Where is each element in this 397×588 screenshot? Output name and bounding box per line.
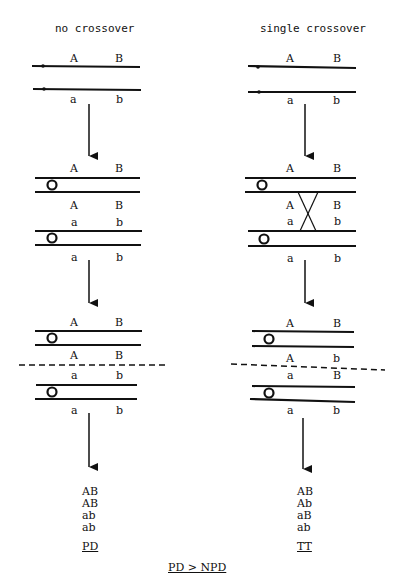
chromosome-line [32,66,140,67]
allele-label: a [71,217,78,228]
allele-label: a [287,216,294,227]
allele-label: b [116,405,123,416]
centromere-icon [260,235,269,244]
allele-label: A [286,53,294,64]
allele-label: b [116,94,123,105]
centromere-icon [48,234,57,243]
no-crossover-column [19,64,165,467]
allele-label: b [334,216,341,227]
allele-label: a [70,94,77,105]
allele-label: a [71,405,78,416]
no-crossover-title: no crossover [55,22,134,35]
allele-label: A [286,318,294,329]
result-label-tt: TT [297,541,313,553]
allele-label: A [70,53,78,64]
genotype: ab [82,522,98,534]
allele-label: a [287,95,294,106]
crossover-chiasma [300,192,318,231]
result-label-pd: PD [82,541,98,553]
allele-label: b [116,217,123,228]
centromere-dot [42,87,46,91]
allele-label: a [287,253,294,264]
allele-label: B [333,200,341,211]
chromosome-line [33,89,141,90]
centromere-icon [48,181,57,190]
genotype-list-no-crossover: AB AB ab ab PD [82,486,98,553]
allele-label: b [333,95,340,106]
allele-label: A [286,353,294,364]
allele-label: A [70,317,78,328]
meiosis-diagram [0,0,397,588]
crossover-chiasma [298,192,316,231]
allele-label: a [287,405,294,416]
allele-label: b [334,253,341,264]
allele-label: B [333,318,341,329]
allele-label: B [115,350,123,361]
allele-label: b [333,353,340,364]
allele-label: A [286,200,294,211]
allele-label: b [116,252,123,263]
centromere-icon [265,389,274,398]
allele-label: A [286,163,294,174]
centromere-icon [48,388,57,397]
allele-label: B [333,370,341,381]
allele-label: a [287,370,294,381]
centromere-dot [41,64,45,68]
allele-label: a [71,252,78,263]
allele-label: A [70,163,78,174]
allele-label: b [116,370,123,381]
allele-label: a [71,370,78,381]
single-crossover-title: single crossover [260,22,366,35]
division-line [231,364,385,370]
centromere-icon [48,334,57,343]
allele-label: B [333,53,341,64]
allele-label: b [333,405,340,416]
allele-label: B [115,163,123,174]
allele-label: A [70,350,78,361]
centromere-icon [258,181,267,190]
allele-label: B [333,163,341,174]
footer-comparison: PD > NPD [168,562,226,574]
allele-label: B [115,53,123,64]
genotype: ab [297,522,313,534]
allele-label: B [115,317,123,328]
allele-label: B [115,200,123,211]
centromere-icon [265,335,274,344]
single-crossover-column [231,65,385,469]
genotype-list-single-crossover: AB Ab aB ab TT [297,486,313,553]
allele-label: A [70,200,78,211]
